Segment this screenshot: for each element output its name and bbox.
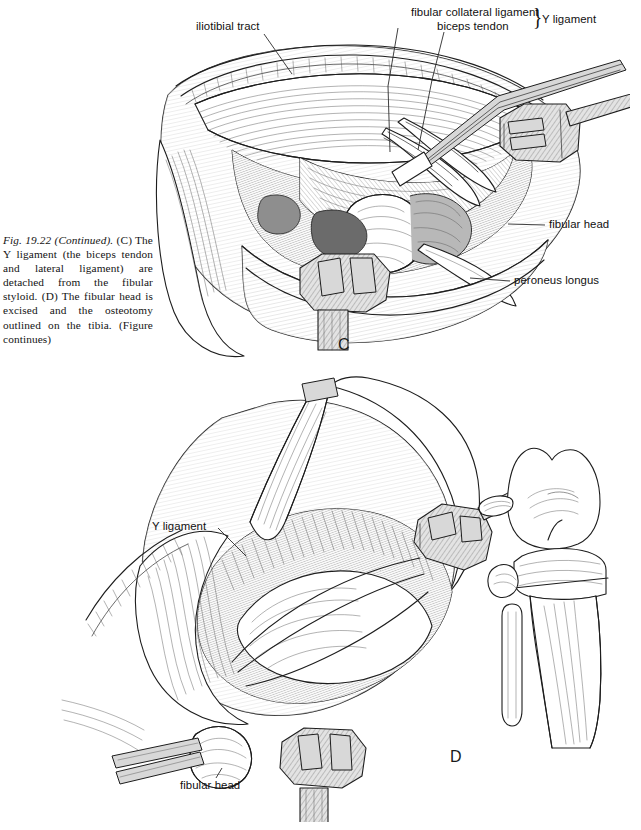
figure-page: Fig. 19.22 (Continued). (C) The Y ligame… [0, 0, 641, 830]
label-fibular-head-panel-d: fibular head [180, 779, 240, 792]
label-fibular-head-panel-c: fibular head [549, 218, 609, 231]
figure-number: Fig. 19.22 (Continued). [3, 234, 113, 246]
panel-d-art [62, 377, 536, 828]
panel-letter-c: C [338, 336, 350, 354]
panel-c-art [156, 45, 641, 357]
label-y-ligament-panel-d: Y ligament [152, 520, 206, 533]
label-biceps-tendon: biceps tendon [437, 20, 509, 33]
label-iliotibial-tract: iliotibial tract [196, 20, 260, 33]
retractor-panel-d-bottom [280, 728, 366, 828]
label-peroneus-longus: peroneus longus [514, 274, 599, 287]
panel-letter-d: D [450, 748, 462, 766]
bone-inset-diagram [479, 448, 608, 748]
surgical-illustration-panel-c [0, 0, 641, 830]
figure-caption: Fig. 19.22 (Continued). (C) The Y ligame… [3, 233, 153, 346]
caption-body: (C) The Y ligament (the biceps tendon an… [3, 234, 153, 345]
label-y-ligament-panel-c: Y ligament [542, 13, 596, 26]
label-fibular-collateral-ligament: fibular collateral ligament [411, 6, 539, 19]
label-group-brace: } [533, 4, 542, 30]
